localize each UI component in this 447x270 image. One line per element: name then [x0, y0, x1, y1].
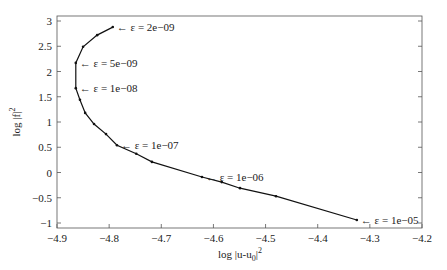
x-axis-title: log |u-u0|2 — [218, 246, 262, 263]
x-tick-label: −4.6 — [203, 232, 223, 244]
plot-frame — [57, 16, 422, 228]
data-point — [111, 26, 114, 29]
x-tick-label: −4.9 — [47, 232, 67, 244]
data-point — [116, 144, 119, 147]
y-tick-label: 1 — [47, 116, 53, 128]
y-tick-label: 2.5 — [38, 40, 52, 52]
data-point — [96, 34, 99, 37]
y-axis-title: log |f|2 — [8, 108, 22, 137]
data-point — [356, 219, 359, 222]
data-point — [151, 161, 154, 164]
data-point — [79, 98, 82, 101]
data-point — [201, 176, 204, 179]
data-point — [74, 62, 77, 65]
x-tick-label: −4.5 — [256, 232, 276, 244]
data-point — [105, 133, 108, 136]
y-tick-label: 0.5 — [38, 141, 52, 153]
data-point — [84, 112, 87, 115]
y-tick-label: −1 — [40, 217, 52, 229]
x-tick-label: −4.7 — [151, 232, 171, 244]
x-tick-label: −4.4 — [308, 232, 328, 244]
epsilon-annotations: ← ε = 2e−09← ε = 5e−09← ε = 1e−08← ε = 1… — [80, 21, 419, 226]
epsilon-label: ← ε = 1e−05 — [361, 214, 419, 226]
epsilon-label: ← ε = 1e−06 — [206, 171, 264, 183]
y-axis-ticks: 32.521.510.50−0.5−1 — [32, 15, 422, 229]
l-curve-chart: −4.9−4.8−4.7−4.6−4.5−4.4−4.3−4.2 32.521.… — [0, 0, 447, 270]
data-point — [135, 153, 138, 156]
data-point — [74, 87, 77, 90]
y-tick-label: 2 — [47, 66, 53, 78]
data-point — [93, 123, 96, 126]
data-markers — [74, 26, 358, 222]
data-point — [82, 45, 85, 48]
epsilon-label: ← ε = 1e−08 — [80, 82, 138, 94]
y-tick-label: 3 — [47, 15, 53, 27]
x-tick-label: −4.8 — [99, 232, 119, 244]
x-axis-ticks: −4.9−4.8−4.7−4.6−4.5−4.4−4.3−4.2 — [47, 224, 432, 244]
y-tick-label: −0.5 — [32, 192, 52, 204]
epsilon-label: ← ε = 2e−09 — [117, 21, 175, 33]
y-tick-label: 0 — [47, 167, 53, 179]
epsilon-label: ← ε = 1e−07 — [121, 139, 179, 151]
data-point — [239, 187, 242, 190]
x-tick-label: −4.2 — [412, 232, 432, 244]
x-tick-label: −4.3 — [360, 232, 380, 244]
data-point — [275, 195, 278, 198]
epsilon-label: ← ε = 5e−09 — [80, 57, 138, 69]
y-tick-label: 1.5 — [38, 91, 52, 103]
